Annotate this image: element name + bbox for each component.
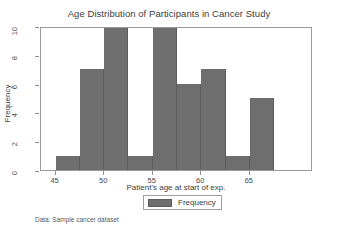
histogram-figure: Age Distribution of Participants in Canc… <box>0 0 338 236</box>
x-axis-title: Patient's age at start of exp. <box>40 183 312 192</box>
x-axis-tick-mark <box>200 171 201 175</box>
y-axis-tick-mark <box>35 85 39 86</box>
histogram-bar <box>56 156 80 170</box>
histogram-bar <box>104 28 128 170</box>
y-axis-tick-mark <box>35 27 39 28</box>
histogram-bar <box>177 84 201 170</box>
histogram-bar <box>128 156 152 170</box>
legend-swatch-frequency <box>148 199 172 207</box>
legend-label-frequency: Frequency <box>178 198 216 207</box>
histogram-bar <box>153 28 177 170</box>
figure-caption: Data: Sample cancer dataset <box>35 216 119 223</box>
legend: Frequency <box>143 195 222 210</box>
chart-title: Age Distribution of Participants in Canc… <box>0 8 338 19</box>
y-axis-tick-mark <box>35 113 39 114</box>
plot-area <box>41 28 311 170</box>
x-axis-tick-mark <box>55 171 56 175</box>
histogram-bar <box>201 69 225 170</box>
histogram-bar <box>250 98 274 170</box>
histogram-bar <box>80 69 104 170</box>
x-axis-tick-mark <box>152 171 153 175</box>
y-axis-tick-label: 10 <box>10 27 19 35</box>
y-axis-tick-mark <box>35 142 39 143</box>
y-axis-title: Frequency <box>3 74 12 134</box>
y-axis-tick-mark <box>35 56 39 57</box>
y-axis-tick-label: 8 <box>10 56 19 60</box>
x-axis-tick-mark <box>103 171 104 175</box>
plot-frame <box>40 27 312 171</box>
histogram-bar <box>226 156 250 170</box>
x-axis-tick-mark <box>249 171 250 175</box>
y-axis-tick-label: 2 <box>10 142 19 146</box>
